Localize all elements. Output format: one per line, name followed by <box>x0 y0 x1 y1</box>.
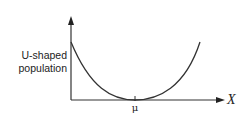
diagram-canvas: μ X <box>0 0 244 120</box>
x-axis-arrow-icon <box>216 97 225 103</box>
y-axis-arrow-icon <box>68 16 74 25</box>
mu-label: μ <box>132 102 139 113</box>
x-axis-label: X <box>226 92 236 107</box>
u-shaped-curve <box>71 42 200 100</box>
